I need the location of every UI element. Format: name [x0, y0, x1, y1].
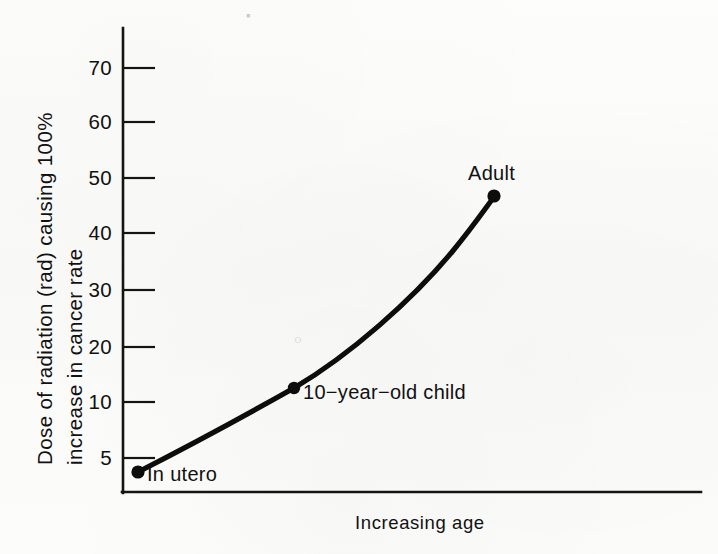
- plot-canvas: [0, 0, 718, 554]
- annotation-adult: Adult: [468, 162, 515, 185]
- x-axis-title: Increasing age: [355, 512, 485, 534]
- radiation-dose-chart-figure: 70 60 50 40 30 20 10 5 In utero 10−year−…: [0, 0, 718, 554]
- data-point-in-utero: [131, 465, 144, 478]
- annotation-in-utero: In utero: [147, 463, 217, 486]
- data-point-adult: [487, 189, 500, 202]
- annotation-10-year-old-child: 10−year−old child: [303, 381, 466, 404]
- data-point-10-year-old-child: [288, 382, 300, 394]
- y-axis-title-line-1: Dose of radiation (rad) causing 100%: [30, 112, 60, 465]
- y-tick-label-70: 70: [74, 56, 112, 80]
- y-axis-title: Dose of radiation (rad) causing 100% inc…: [30, 112, 89, 465]
- y-axis-title-line-2: increase in cancer rate: [60, 112, 90, 465]
- dose-response-curve: [138, 197, 494, 472]
